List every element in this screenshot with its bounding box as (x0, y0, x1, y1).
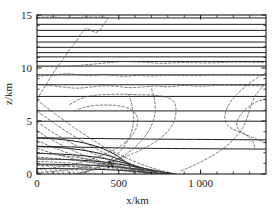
x-axis-title: x/km (0, 194, 275, 206)
plot-annotations-group: N (106, 158, 115, 170)
x-tick-label: 0 (34, 177, 40, 189)
contour-plot-canvas: 05001 000051015 N (0, 0, 275, 218)
y-tick-label: 10 (21, 62, 33, 74)
figure-background (0, 0, 275, 218)
y-tick-label: 0 (27, 168, 33, 180)
contour-figure: 05001 000051015 N x/km z/km (0, 0, 275, 218)
y-tick-label: 15 (21, 9, 33, 21)
y-tick-label: 5 (27, 115, 33, 127)
contour-annotation: N (106, 158, 115, 170)
x-tick-label: 500 (111, 177, 128, 189)
x-tick-label: 1 000 (188, 177, 213, 189)
y-axis-title: z/km (2, 72, 14, 116)
